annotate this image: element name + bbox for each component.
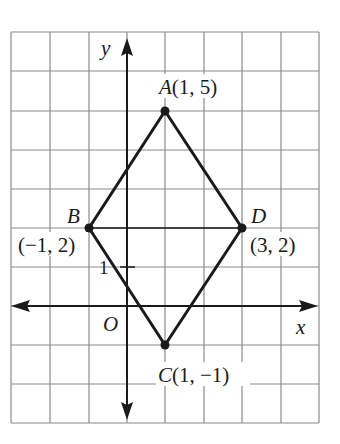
point-a [161, 107, 170, 116]
y-axis [121, 38, 133, 420]
y-axis-label: y [99, 36, 111, 60]
y-tick-1-label: 1 [99, 257, 109, 278]
point-a-coords: (1, 5) [172, 75, 218, 99]
coordinate-plane: y x O 1 A(1, 5) B (−1, 2) D (3, 2) C(1, … [0, 0, 340, 444]
point-c-coords: (1, −1) [172, 363, 229, 387]
point-a-label: A(1, 5) [157, 75, 217, 99]
point-d-coords: (3, 2) [250, 233, 296, 257]
point-c [161, 341, 170, 350]
point-b-coords: (−1, 2) [18, 233, 75, 257]
x-axis-label: x [295, 315, 306, 339]
origin-label: O [103, 312, 118, 336]
point-b [85, 224, 94, 233]
point-b-letter: B [67, 204, 80, 228]
point-d-letter: D [250, 204, 266, 228]
point-d [238, 224, 247, 233]
point-c-label: C(1, −1) [158, 363, 229, 387]
